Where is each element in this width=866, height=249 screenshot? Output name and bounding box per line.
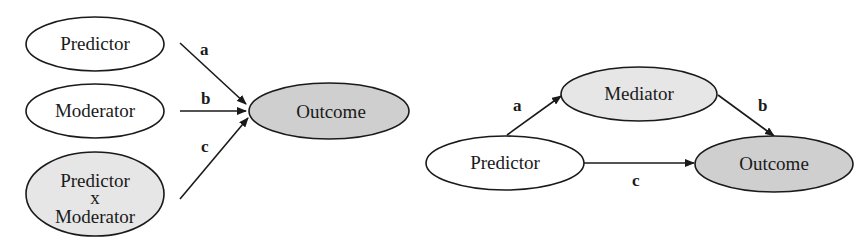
node-outcome-label: Outcome [296,101,366,122]
node-moderator: Moderator [26,84,164,138]
node-predictor-label: Predictor [60,33,130,54]
path-label-b: b [758,96,767,115]
mediation-model: a b c Mediator Predictor Outcome [426,67,853,192]
path-label-a: a [200,40,209,59]
edge-c-interaction-to-outcome [180,118,248,199]
node-outcome: Outcome [249,83,409,139]
edge-a-predictor-to-outcome [180,43,246,104]
path-label-c: c [201,137,209,156]
node-mediator: Mediator [561,67,717,121]
path-label-a: a [513,96,522,115]
node-interaction-label-line2: x [90,187,100,208]
path-label-c: c [632,171,640,190]
node-predictor: Predictor [426,136,584,190]
moderation-model: a b c Predictor Moderator Predictor x Mo… [26,17,409,236]
node-outcome-label: Outcome [739,153,809,174]
node-interaction-label-line3: Moderator [55,206,136,227]
node-predictor-label: Predictor [470,152,540,173]
node-interaction: Predictor x Moderator [26,152,164,236]
node-predictor: Predictor [26,17,164,71]
node-outcome: Outcome [695,136,853,192]
node-mediator-label: Mediator [604,83,674,104]
path-label-b: b [201,89,210,108]
node-moderator-label: Moderator [55,100,136,121]
diagram-canvas: a b c Predictor Moderator Predictor x Mo… [0,0,866,249]
